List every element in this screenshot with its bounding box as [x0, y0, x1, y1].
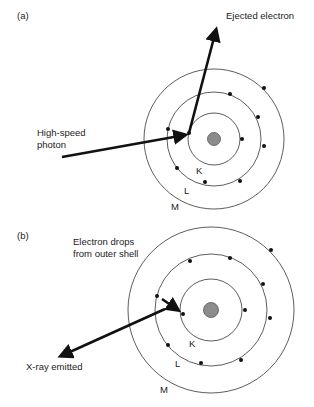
drop-label-line2: from outer shell: [73, 248, 138, 259]
panel-b: (b) Electron drops from outer shell X-ra…: [17, 227, 294, 395]
electron: [199, 361, 203, 365]
electron: [166, 343, 170, 347]
electron: [166, 127, 170, 131]
electron: [228, 256, 232, 260]
ejected-electron-label: Ejected electron: [226, 10, 294, 21]
shell-m-label-a: M: [171, 201, 179, 212]
electron: [239, 358, 243, 362]
electron: [175, 166, 179, 170]
electron: [261, 282, 265, 286]
electron: [188, 259, 192, 263]
electron: [240, 137, 244, 141]
panel-a: (a) Ejected electron High-speed photon K…: [17, 10, 294, 212]
shell-m-label-b: M: [160, 384, 168, 395]
electron: [243, 308, 247, 312]
electron: [268, 316, 272, 320]
shell-k-label-a: K: [196, 165, 203, 176]
electron: [256, 115, 260, 119]
nucleus-b: [204, 303, 219, 318]
shell-l-label-a: L: [184, 185, 189, 196]
ejected-electron-arrow: [189, 30, 216, 133]
xray-emitted-label: X-ray emitted: [26, 361, 83, 372]
photon-label-line2: photon: [37, 139, 66, 150]
drop-label-line1: Electron drops: [73, 236, 135, 247]
xray-arrow: [61, 309, 165, 356]
electron: [203, 180, 207, 184]
panel-a-label: (a): [17, 10, 29, 21]
atom-diagram: (a) Ejected electron High-speed photon K…: [0, 0, 314, 407]
photon-label-line1: High-speed: [37, 127, 86, 138]
electron: [262, 144, 266, 148]
photon-arrow: [62, 135, 185, 157]
shell-k-label-b: K: [189, 338, 196, 349]
electron-l-dropping: [155, 294, 159, 298]
electron: [262, 86, 266, 90]
shell-l-label-b: L: [175, 358, 180, 369]
electron-k-filled: [181, 312, 185, 316]
electron: [238, 179, 242, 183]
nucleus-a: [208, 133, 221, 146]
panel-b-label: (b): [17, 230, 29, 241]
electron: [228, 92, 232, 96]
electron: [269, 248, 273, 252]
